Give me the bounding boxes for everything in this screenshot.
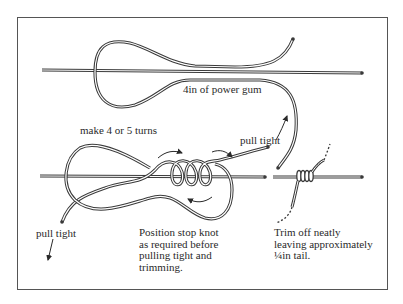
trim-line-3: ¼in tail.: [274, 250, 373, 262]
step1-loop-diagram: [42, 37, 364, 170]
label-position-instructions: Position stop knot as required before pu…: [139, 227, 218, 273]
power-gum-strand-wrap: [60, 145, 270, 224]
knot-tails: [276, 144, 330, 223]
middle-line-rod: [40, 175, 267, 179]
position-line-4: trimming.: [139, 262, 218, 274]
right-line-rod: [273, 175, 364, 179]
top-line-rod: [42, 70, 364, 75]
turn-arrow-bottom: [188, 197, 212, 202]
label-pull-tight-left: pull tight: [36, 228, 76, 240]
position-line-3: pulling tight and: [139, 250, 218, 262]
turn-arrow-top-left: [158, 151, 182, 158]
position-line-1: Position stop knot: [139, 227, 218, 239]
power-gum-strand-top: [95, 37, 296, 170]
label-power-gum-length: 4in of power gum: [183, 84, 262, 96]
label-make-turns: make 4 or 5 turns: [80, 125, 157, 137]
label-trim-instructions: Trim off neatly leaving approximately ¼i…: [274, 227, 373, 262]
pull-arrow-left: [48, 239, 53, 260]
trim-line-1: Trim off neatly: [274, 227, 373, 239]
label-pull-tight-right: pull tight: [240, 135, 280, 147]
tied-knot: [297, 171, 313, 182]
